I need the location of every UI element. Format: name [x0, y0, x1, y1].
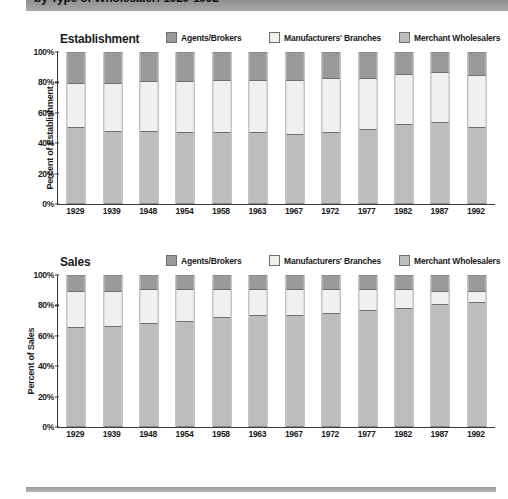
stacked-bar[interactable] — [395, 275, 414, 427]
x-axis-tick-label: 1929 — [57, 206, 93, 220]
stacked-bar[interactable] — [140, 52, 159, 204]
stacked-bar[interactable] — [140, 275, 159, 427]
bar-segment-agents — [286, 53, 303, 81]
bar-segment-merchant — [359, 311, 376, 426]
bar-segment-merchant — [432, 123, 449, 203]
stacked-bar[interactable] — [67, 275, 86, 427]
bar-segment-merchant — [68, 328, 85, 426]
bar-slot — [386, 52, 422, 204]
bar-slot — [240, 275, 276, 427]
stacked-bar[interactable] — [467, 52, 486, 204]
x-axis-tick-label: 1939 — [93, 429, 129, 443]
stacked-bar[interactable] — [176, 275, 195, 427]
legend-label-agents-brokers: Agents/Brokers — [181, 256, 242, 266]
x-axis-tick-label: 1967 — [276, 429, 312, 443]
bar-segment-merchant — [286, 316, 303, 426]
legend-label-agents-brokers: Agents/Brokers — [181, 33, 242, 43]
bar-segment-agents — [213, 276, 230, 290]
x-axis-tick-label: 1963 — [239, 206, 275, 220]
bar-segment-agents — [141, 53, 158, 82]
bar-segment-branches — [177, 82, 194, 133]
stacked-bar[interactable] — [322, 52, 341, 204]
bar-slot — [313, 275, 349, 427]
stacked-bar[interactable] — [67, 52, 86, 204]
bar-segment-merchant — [396, 309, 413, 426]
bar-slot — [167, 52, 203, 204]
bar-segment-agents — [286, 276, 303, 290]
stacked-bar[interactable] — [285, 275, 304, 427]
bar-segment-branches — [68, 292, 85, 329]
bar-segment-merchant — [141, 132, 158, 203]
footer-rule — [26, 487, 496, 492]
legend-swatch-manufacturers-branches — [269, 255, 280, 266]
x-axis-tick-label: 1948 — [130, 206, 166, 220]
stacked-bar[interactable] — [249, 52, 268, 204]
bar-segment-branches — [396, 290, 413, 309]
stacked-bar[interactable] — [103, 275, 122, 427]
x-axis-tick-label: 1977 — [348, 206, 384, 220]
bar-segment-agents — [396, 53, 413, 75]
x-axis-tick-label: 1939 — [93, 206, 129, 220]
y-axis-tick-mark — [55, 51, 59, 52]
x-axis-tick-label: 1987 — [421, 429, 457, 443]
stacked-bar[interactable] — [249, 275, 268, 427]
bar-slot — [240, 52, 276, 204]
bar-slot — [94, 52, 130, 204]
y-axis-tick-mark — [55, 366, 59, 367]
stacked-bar[interactable] — [431, 275, 450, 427]
bar-segment-merchant — [468, 303, 485, 426]
y-axis-tick: 20% — [38, 169, 54, 179]
bar-segment-branches — [141, 290, 158, 324]
x-axis-tick-label: 1948 — [130, 429, 166, 443]
stacked-bar[interactable] — [176, 52, 195, 204]
y-axis-tick-mark — [55, 112, 59, 113]
bar-segment-agents — [104, 276, 121, 292]
stacked-bar[interactable] — [467, 275, 486, 427]
bar-segment-merchant — [104, 327, 121, 426]
y-axis-tick-mark — [55, 203, 59, 204]
legend-item-agents-brokers: Agents/Brokers — [166, 255, 242, 266]
x-axis-tick-label: 1954 — [166, 206, 202, 220]
stacked-bar[interactable] — [212, 275, 231, 427]
stacked-bar[interactable] — [431, 52, 450, 204]
bar-segment-branches — [432, 292, 449, 305]
bar-segment-branches — [286, 290, 303, 316]
stacked-bar[interactable] — [358, 52, 377, 204]
bar-segment-branches — [468, 292, 485, 303]
bar-segment-agents — [359, 276, 376, 290]
legend-swatch-merchant-wholesalers — [399, 32, 410, 43]
legend-item-manufacturers-branches: Manufacturers' Branches — [269, 255, 381, 266]
bar-segment-agents — [432, 53, 449, 73]
bar-slot — [313, 52, 349, 204]
legend-item-manufacturers-branches: Manufacturers' Branches — [269, 32, 381, 43]
x-axis-tick-label: 1963 — [239, 429, 275, 443]
y-axis-tick: 0% — [42, 422, 54, 432]
x-axis-tick-label: 1992 — [458, 429, 494, 443]
bar-segment-merchant — [250, 133, 267, 203]
bar-segment-agents — [323, 276, 340, 290]
legend-label-manufacturers-branches: Manufacturers' Branches — [284, 33, 381, 43]
bar-segment-agents — [141, 276, 158, 290]
stacked-bar[interactable] — [358, 275, 377, 427]
y-axis-tick: 40% — [38, 361, 54, 371]
bar-segment-merchant — [286, 135, 303, 203]
bar-segment-merchant — [177, 322, 194, 426]
bar-segment-agents — [177, 276, 194, 290]
stacked-bar[interactable] — [212, 52, 231, 204]
legend-swatch-merchant-wholesalers — [399, 255, 410, 266]
y-axis-tick: 100% — [33, 47, 54, 57]
stacked-bar[interactable] — [395, 52, 414, 204]
legend-swatch-agents-brokers — [166, 32, 177, 43]
bar-segment-agents — [213, 53, 230, 81]
bar-group-establishment — [58, 52, 495, 204]
y-axis-tick: 20% — [38, 392, 54, 402]
stacked-bar[interactable] — [322, 275, 341, 427]
stacked-bar[interactable] — [103, 52, 122, 204]
bar-slot — [204, 275, 240, 427]
bar-segment-merchant — [68, 128, 85, 203]
stacked-bar[interactable] — [285, 52, 304, 204]
bar-segment-agents — [177, 53, 194, 82]
bar-slot — [58, 275, 94, 427]
plot-area-sales: 0%20%40%60%80%100% — [57, 275, 495, 428]
bar-segment-merchant — [213, 133, 230, 203]
